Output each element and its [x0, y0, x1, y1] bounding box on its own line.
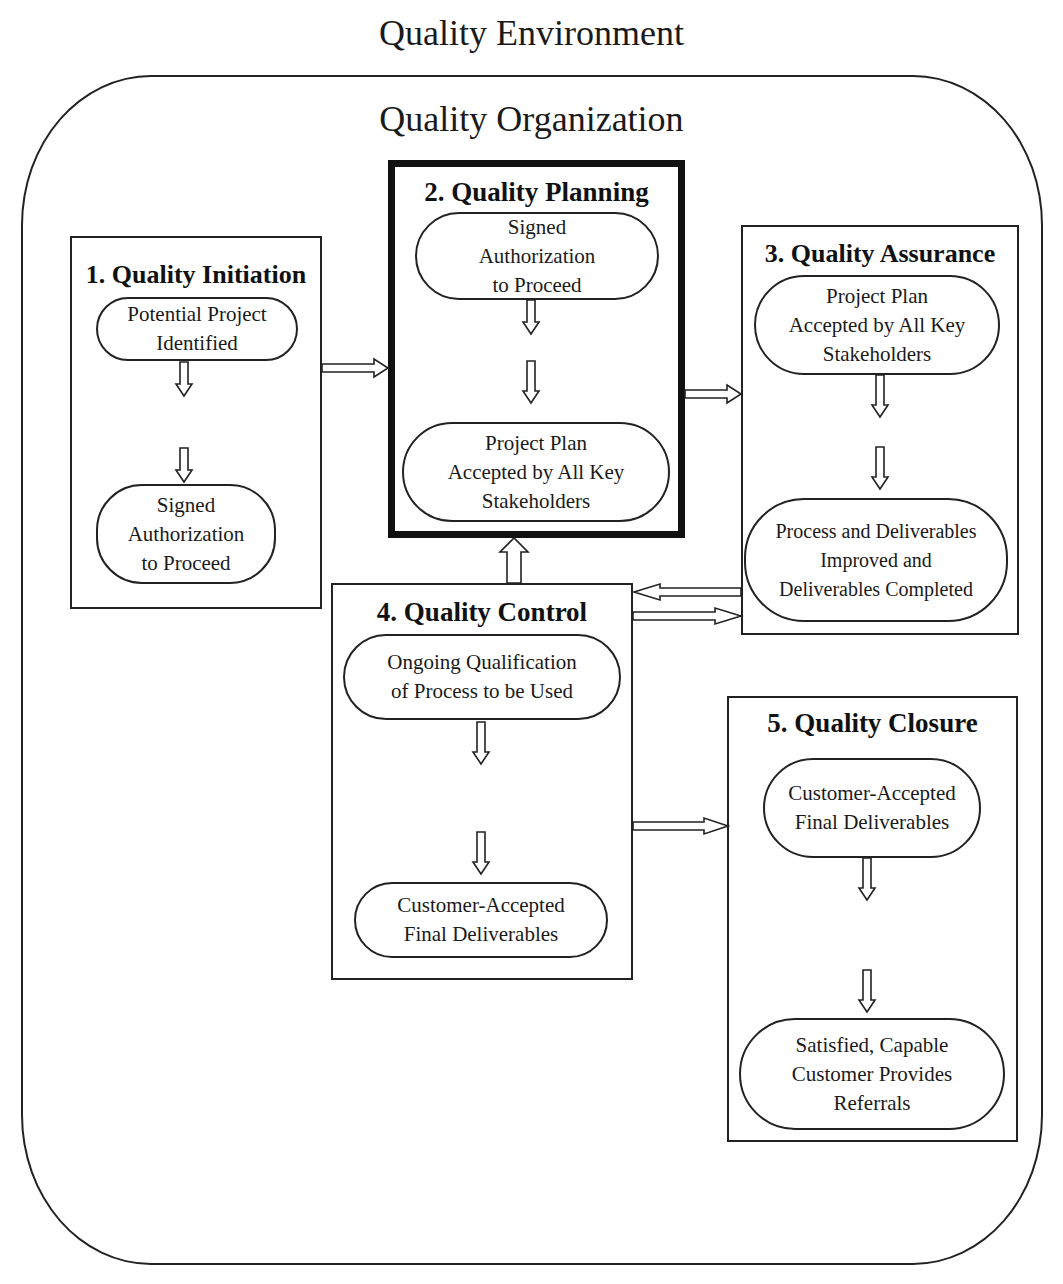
arrow-up-icon	[500, 538, 528, 583]
arrow-down-icon	[473, 722, 489, 764]
flow-arrows	[0, 0, 1063, 1284]
arrow-right-icon	[322, 359, 388, 377]
arrow-down-icon	[859, 858, 875, 900]
arrow-right-icon	[685, 385, 741, 403]
arrow-down-icon	[176, 362, 192, 396]
arrow-down-icon	[859, 970, 875, 1012]
arrow-down-icon	[872, 447, 888, 489]
arrow-right-icon	[633, 818, 728, 834]
arrow-right-icon	[633, 608, 741, 624]
arrow-down-icon	[473, 832, 489, 874]
arrow-down-icon	[176, 448, 192, 482]
arrow-down-icon	[523, 361, 539, 403]
arrow-down-icon	[523, 300, 539, 334]
arrow-down-icon	[872, 375, 888, 417]
arrow-left-icon	[634, 584, 741, 600]
